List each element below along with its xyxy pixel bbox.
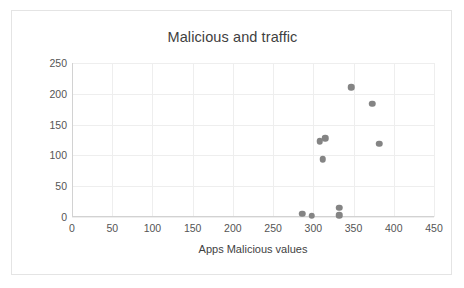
- scatter-point: [369, 100, 376, 107]
- gridline-horizontal: [72, 155, 434, 156]
- gridline-vertical: [233, 63, 234, 217]
- x-tick-label: 0: [69, 222, 75, 234]
- x-tick-label: 50: [106, 222, 118, 234]
- x-tick-label: 100: [144, 222, 162, 234]
- y-tick-label: 0: [61, 211, 67, 223]
- x-tick-label: 400: [385, 222, 403, 234]
- scatter-point: [308, 213, 315, 220]
- x-axis-title: Apps Malicious values: [72, 243, 434, 255]
- x-tick-label: 200: [224, 222, 242, 234]
- y-tick-label: 50: [55, 180, 67, 192]
- gridline-horizontal: [72, 63, 434, 64]
- x-tick-label: 150: [184, 222, 202, 234]
- y-tick-label: 250: [49, 57, 67, 69]
- scatter-point: [376, 140, 383, 147]
- gridline-vertical: [394, 63, 395, 217]
- y-tick-label: 100: [49, 149, 67, 161]
- gridline-horizontal: [72, 186, 434, 187]
- gridline-vertical: [434, 63, 435, 217]
- y-axis-line: [72, 63, 73, 217]
- gridline-vertical: [152, 63, 153, 217]
- gridline-horizontal: [72, 125, 434, 126]
- gridline-vertical: [273, 63, 274, 217]
- x-axis-line: [72, 216, 434, 217]
- plot-area: 050100150200250 050100150200250300350400…: [72, 63, 434, 217]
- chart-title: Malicious and traffic: [12, 29, 453, 45]
- y-tick-label: 150: [49, 119, 67, 131]
- gridline-vertical: [193, 63, 194, 217]
- scatter-point: [348, 84, 355, 91]
- x-tick-label: 250: [264, 222, 282, 234]
- x-tick-label: 300: [305, 222, 323, 234]
- scatter-point: [320, 156, 327, 163]
- scatter-point: [322, 135, 329, 142]
- gridline-horizontal: [72, 217, 434, 218]
- y-tick-label: 200: [49, 88, 67, 100]
- x-tick-label: 450: [425, 222, 443, 234]
- gridline-horizontal: [72, 94, 434, 95]
- x-tick-label: 350: [345, 222, 363, 234]
- scatter-point: [336, 205, 343, 212]
- scatter-point: [299, 211, 306, 218]
- chart-container: Malicious and traffic 050100150200250 05…: [11, 10, 452, 275]
- gridline-vertical: [313, 63, 314, 217]
- scatter-point: [336, 212, 343, 219]
- gridline-vertical: [112, 63, 113, 217]
